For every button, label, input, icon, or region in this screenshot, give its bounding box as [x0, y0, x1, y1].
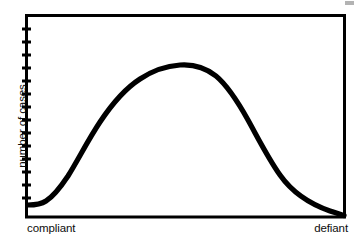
scan-artifact — [345, 1, 354, 5]
x-axis-label-left: compliant — [27, 222, 75, 234]
frame-rect — [27, 16, 345, 218]
y-axis-label: number of cases — [14, 61, 30, 191]
distribution-curve — [28, 65, 344, 216]
axis-frame — [27, 16, 345, 218]
x-axis-label-right: defiant — [314, 222, 348, 234]
plot-area — [0, 0, 356, 249]
chart-figure: number of cases compliant defiant — [0, 0, 356, 249]
